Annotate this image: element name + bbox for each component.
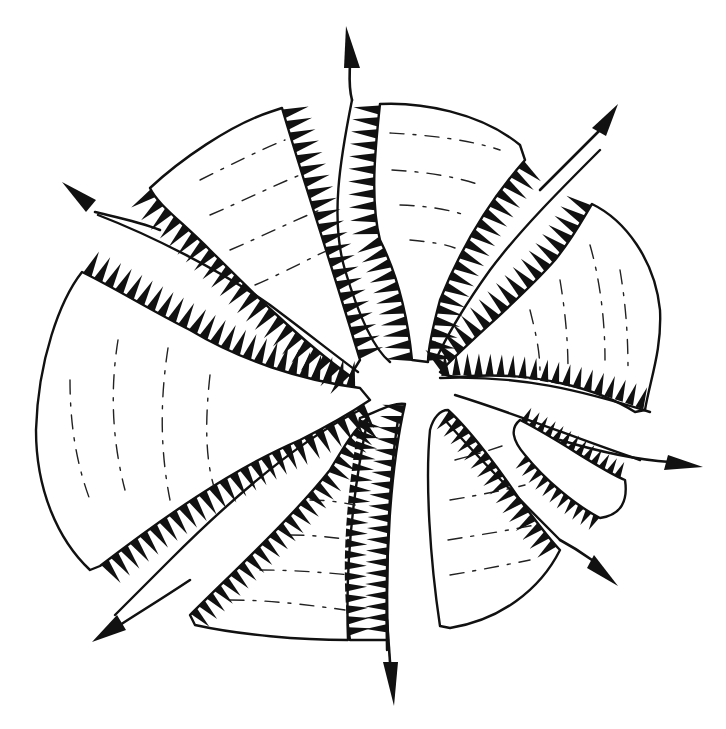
arrow-southeast xyxy=(560,540,618,586)
arrowhead-east-icon xyxy=(664,455,703,470)
arrow-northwest xyxy=(62,182,160,230)
arrowhead-northwest-icon xyxy=(62,182,96,212)
arrow-north xyxy=(344,26,360,100)
diagram-canvas xyxy=(0,0,726,729)
arrowhead-northeast-icon xyxy=(592,104,618,136)
arrowhead-southeast-icon xyxy=(587,555,618,586)
radial-fracture-diagram xyxy=(0,0,726,729)
arrowhead-southwest-icon xyxy=(92,615,126,642)
arrowhead-south-icon xyxy=(383,662,398,706)
arrow-northeast xyxy=(540,104,618,190)
arrowhead-north-icon xyxy=(344,26,360,68)
